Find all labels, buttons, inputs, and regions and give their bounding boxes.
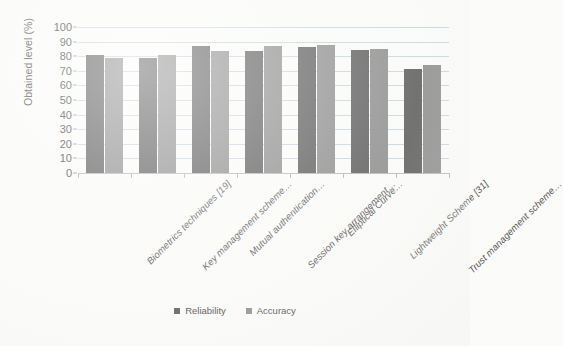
y-axis-tick-label: 20 [60, 138, 72, 150]
x-axis-tick-mark [449, 173, 450, 178]
y-axis-tick-mark [73, 100, 77, 101]
y-axis-title: Obtained level (%) [22, 0, 34, 132]
bar-accuracy[interactable] [105, 58, 123, 173]
y-axis-tick-mark [73, 70, 77, 71]
y-axis-tick-mark [73, 173, 77, 174]
legend-label: Accuracy [257, 305, 296, 316]
bar-accuracy[interactable] [264, 46, 282, 173]
bar-group [78, 27, 131, 173]
bar-reliability[interactable] [298, 47, 316, 173]
bar-group [396, 27, 449, 173]
square-marker-icon [174, 308, 180, 314]
bar-reliability[interactable] [86, 55, 104, 173]
bar-reliability[interactable] [245, 51, 263, 173]
bar-reliability[interactable] [404, 69, 422, 173]
bar-accuracy[interactable] [423, 65, 441, 173]
plot-area: 1009080706050403020100 [78, 27, 449, 173]
bar-group [184, 27, 237, 173]
y-axis-tick-label: 70 [60, 65, 72, 77]
legend-item-accuracy[interactable]: Accuracy [246, 305, 296, 316]
y-axis-tick-label: 60 [60, 79, 72, 91]
square-marker-icon [246, 308, 252, 314]
legend-label: Reliability [185, 305, 226, 316]
bar-accuracy[interactable] [158, 55, 176, 173]
bar-reliability[interactable] [139, 58, 157, 173]
y-axis-tick-label: 40 [60, 109, 72, 121]
y-axis-tick-mark [73, 56, 77, 57]
bar-reliability[interactable] [351, 50, 369, 173]
bar-accuracy[interactable] [317, 45, 335, 173]
y-axis-tick-mark [73, 158, 77, 159]
y-axis-tick-label: 30 [60, 123, 72, 135]
y-axis-tick-label: 0 [66, 167, 72, 179]
chart-legend: ReliabilityAccuracy [0, 305, 470, 316]
y-axis-tick-mark [73, 114, 77, 115]
y-axis-tick-label: 50 [60, 94, 72, 106]
bar-group [131, 27, 184, 173]
y-axis-tick-label: 80 [60, 50, 72, 62]
bar-accuracy[interactable] [211, 51, 229, 173]
y-axis-tick-mark [73, 85, 77, 86]
y-axis-tick-mark [73, 27, 77, 28]
y-axis-tick-label: 10 [60, 152, 72, 164]
y-axis-tick-label: 90 [60, 36, 72, 48]
y-axis-tick-mark [73, 143, 77, 144]
x-axis-label-5: Lightweight Scheme [31] [407, 178, 490, 261]
bar-group [237, 27, 290, 173]
y-axis-tick-mark [73, 41, 77, 42]
bar-reliability[interactable] [192, 46, 210, 173]
bar-group [343, 27, 396, 173]
bar-group [290, 27, 343, 173]
legend-item-reliability[interactable]: Reliability [174, 305, 226, 316]
bar-groups [78, 27, 449, 173]
x-axis-label-4: Elliptical Curve… [345, 178, 405, 238]
y-axis-tick-label: 100 [54, 21, 72, 33]
bar-accuracy[interactable] [370, 49, 388, 173]
y-axis-tick-mark [73, 129, 77, 130]
x-axis-category-labels: Biometrics techniques [19]Key management… [78, 178, 449, 290]
